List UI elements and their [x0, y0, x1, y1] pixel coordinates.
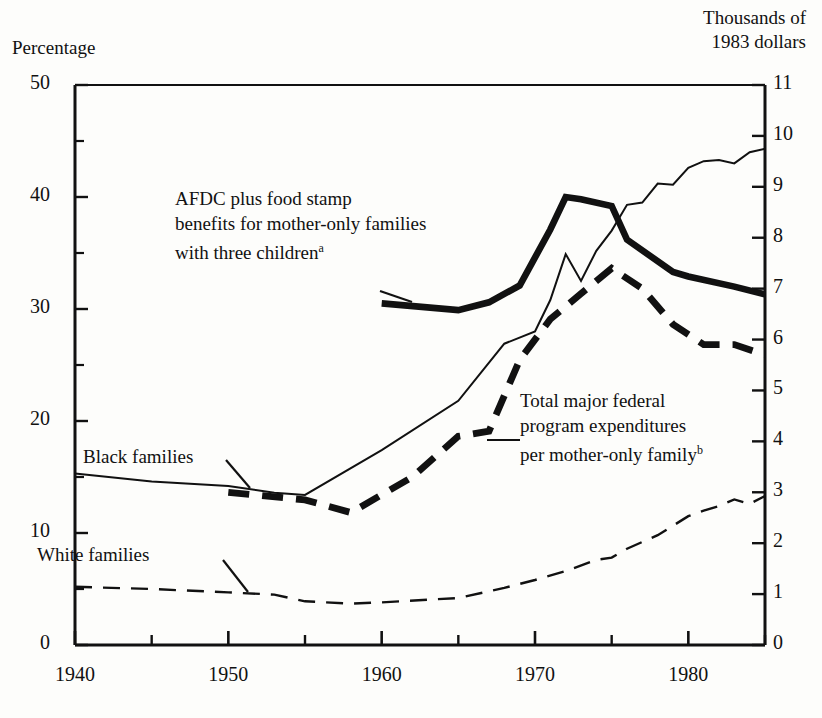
- annotation-afdc-line-1: AFDC plus food stamp: [175, 186, 426, 211]
- y-tick-right-6: 6: [773, 326, 817, 349]
- axis-frame: [75, 85, 765, 645]
- series-label-white-families: White families: [37, 544, 149, 566]
- y-tick-right-1: 1: [773, 580, 817, 603]
- y-tick-right-5: 5: [773, 376, 817, 399]
- y-tick-right-9: 9: [773, 173, 817, 196]
- annotation-total-line-2: program expenditures: [520, 413, 703, 438]
- annotation-afdc-line-2: benefits for mother-only families: [175, 211, 426, 236]
- y-tick-right-0: 0: [773, 631, 817, 654]
- y-tick-left-30: 30: [6, 295, 50, 318]
- annotation-leader-lines: [223, 291, 520, 592]
- annotation-total-line-1: Total major federal: [520, 388, 703, 413]
- annotation-afdc-line-3: with three childrena: [175, 236, 426, 265]
- annotation-total-line-3-text: per mother-only family: [520, 444, 697, 465]
- plot-canvas: [0, 0, 822, 718]
- chart-figure: Percentage Thousands of 1983 dollars AFD…: [0, 0, 822, 718]
- y-tick-right-4: 4: [773, 427, 817, 450]
- series-label-black-families: Black families: [83, 446, 193, 468]
- footnote-marker-a: a: [319, 241, 324, 255]
- y-tick-right-10: 10: [773, 122, 817, 145]
- axis-ticks: [75, 85, 765, 645]
- y-tick-left-0: 0: [6, 631, 50, 654]
- series-path-2: [382, 197, 765, 310]
- y-tick-left-50: 50: [6, 71, 50, 94]
- x-tick-1970: 1970: [495, 663, 575, 686]
- y-tick-right-3: 3: [773, 478, 817, 501]
- y-tick-right-11: 11: [773, 71, 817, 94]
- x-tick-1940: 1940: [35, 663, 115, 686]
- annotation-afdc-line-3-text: with three children: [175, 242, 319, 263]
- y-tick-left-40: 40: [6, 183, 50, 206]
- annotation-total-line-3: per mother-only familyb: [520, 438, 703, 467]
- y-tick-right-7: 7: [773, 275, 817, 298]
- y-tick-left-10: 10: [6, 519, 50, 542]
- annotation-afdc: AFDC plus food stamp benefits for mother…: [175, 186, 426, 265]
- annotation-total-expenditures: Total major federal program expenditures…: [520, 388, 703, 467]
- y-tick-right-8: 8: [773, 224, 817, 247]
- series-path-1: [75, 496, 765, 604]
- y-tick-right-2: 2: [773, 529, 817, 552]
- x-tick-1980: 1980: [648, 663, 728, 686]
- x-tick-1960: 1960: [342, 663, 422, 686]
- x-tick-1950: 1950: [188, 663, 268, 686]
- footnote-marker-b: b: [697, 443, 703, 457]
- y-tick-left-20: 20: [6, 407, 50, 430]
